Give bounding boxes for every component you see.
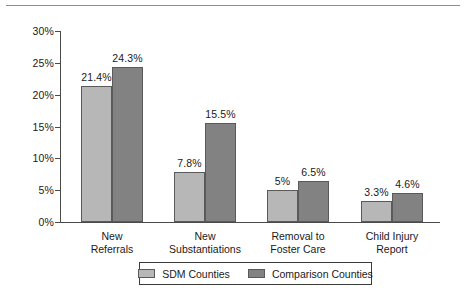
bar-sdm-4 bbox=[361, 201, 392, 222]
y-axis-tick-label: 15% bbox=[20, 121, 54, 133]
y-axis-tick-label: 0% bbox=[20, 216, 54, 228]
bar-comparison-4 bbox=[392, 193, 423, 222]
bar-value-label: 24.3% bbox=[112, 52, 142, 64]
legend-swatch-icon-sdm-counties bbox=[138, 269, 155, 278]
bar-value-label: 15.5% bbox=[205, 108, 235, 120]
chart-legend: SDM Counties Comparison Counties bbox=[139, 262, 372, 285]
y-axis-tick-label: 10% bbox=[20, 152, 54, 164]
plot-area: 21.4%24.3%7.8%15.5%5%6.5%3.3%4.6% bbox=[60, 31, 440, 222]
x-axis-category-label-line: New bbox=[91, 230, 134, 243]
legend-entry-sdm-counties: SDM Counties bbox=[138, 268, 230, 280]
x-axis-category-label-line: Foster Care bbox=[270, 243, 325, 256]
y-axis-tick bbox=[55, 31, 60, 32]
y-axis-tick bbox=[55, 63, 60, 64]
x-axis-category-label-line: Report bbox=[366, 243, 419, 256]
x-axis-category-label: NewReferrals bbox=[91, 230, 134, 255]
x-axis-category-label: Removal toFoster Care bbox=[270, 230, 325, 255]
legend-entry-comparison-counties: Comparison Counties bbox=[248, 268, 373, 280]
bar-comparison-3 bbox=[298, 181, 329, 222]
bar-sdm-2 bbox=[174, 172, 205, 222]
y-axis-tick-label: 20% bbox=[20, 89, 54, 101]
bar-value-label: 5% bbox=[275, 175, 290, 187]
bar-comparison-1 bbox=[112, 67, 143, 222]
legend-label-comparison-counties: Comparison Counties bbox=[272, 268, 373, 280]
y-axis-tick-label: 30% bbox=[20, 25, 54, 37]
top-divider-rule bbox=[6, 5, 460, 6]
y-axis-tick-label: 25% bbox=[20, 57, 54, 69]
legend-label-sdm-counties: SDM Counties bbox=[162, 268, 230, 280]
x-axis-category-label: Child InjuryReport bbox=[366, 230, 419, 255]
bar-comparison-2 bbox=[205, 123, 236, 222]
y-axis-line bbox=[60, 31, 61, 222]
bar-chart-figure: 21.4%24.3%7.8%15.5%5%6.5%3.3%4.6% 0%5%10… bbox=[0, 0, 472, 298]
bar-value-label: 21.4% bbox=[81, 71, 111, 83]
x-axis-category-label-line: Substantiations bbox=[169, 243, 241, 256]
y-axis-tick bbox=[55, 222, 60, 223]
bar-value-label: 3.3% bbox=[364, 186, 388, 198]
y-axis-tick-label: 5% bbox=[20, 184, 54, 196]
y-axis-tick bbox=[55, 95, 60, 96]
y-axis-tick bbox=[55, 190, 60, 191]
bar-value-label: 7.8% bbox=[177, 157, 201, 169]
bar-sdm-3 bbox=[267, 190, 298, 222]
x-axis-category-label: NewSubstantiations bbox=[169, 230, 241, 255]
y-axis-tick bbox=[55, 158, 60, 159]
legend-swatch-icon-comparison-counties bbox=[248, 269, 265, 278]
x-axis-category-label-line: Removal to bbox=[270, 230, 325, 243]
bar-value-label: 4.6% bbox=[395, 178, 419, 190]
x-axis-category-label-line: Referrals bbox=[91, 243, 134, 256]
y-axis-tick bbox=[55, 127, 60, 128]
bar-sdm-1 bbox=[81, 86, 112, 222]
bar-value-label: 6.5% bbox=[301, 166, 325, 178]
x-axis-category-label-line: Child Injury bbox=[366, 230, 419, 243]
x-axis-line bbox=[60, 222, 440, 223]
x-axis-category-label-line: New bbox=[169, 230, 241, 243]
